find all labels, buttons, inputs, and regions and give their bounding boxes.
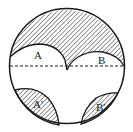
label-b-prime: B' [96, 101, 105, 113]
label-a-prime: A' [33, 98, 43, 110]
label-b: B [98, 54, 105, 66]
label-a: A [34, 49, 42, 61]
circle-diagram: A B A' B' [0, 0, 133, 132]
upper-hatched-region [10, 10, 124, 70]
